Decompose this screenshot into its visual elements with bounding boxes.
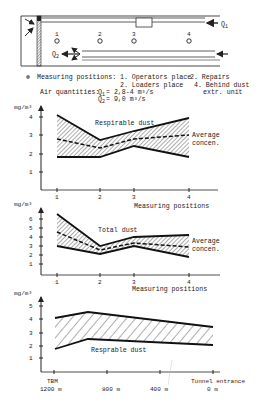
average-annotation: concen.: [192, 140, 220, 147]
q2-label: Q2: [52, 51, 59, 60]
svg-text:5: 5: [29, 225, 33, 232]
x-tick-label: 400 m: [150, 386, 168, 393]
tunnel-diagram: Q1 1 2 3 4 Q2: [21, 16, 228, 66]
svg-text:3: 3: [132, 279, 136, 286]
x-tick-label: 1200 m: [40, 386, 62, 393]
y-axis-label: mg/m³: [14, 201, 32, 208]
face-wall: [37, 16, 41, 66]
x-axis-label: Measuring positions: [132, 286, 207, 293]
supply-duct: Q2: [52, 48, 228, 60]
svg-text:1: 1: [55, 194, 59, 201]
q1-flow: Q1: [207, 21, 228, 30]
chart-respirable-dust-distance: mg/m³ 1 2 3 4 5 Resprable dust TBM 1200 …: [14, 290, 245, 393]
svg-text:2: 2: [98, 194, 102, 201]
legend-title: Measuring positions:: [37, 74, 116, 81]
svg-text:2: 2: [98, 279, 102, 286]
x-tick-label: Tunnel entrance: [191, 378, 245, 385]
measuring-symbol-icon: ⊗: [26, 74, 30, 81]
svg-text:3: 3: [132, 194, 136, 201]
svg-text:2: 2: [29, 151, 33, 158]
measuring-points: 1 2 3 4: [55, 31, 191, 43]
svg-text:1: 1: [55, 279, 59, 286]
legend-item: extr. unit: [203, 89, 243, 96]
position-label: 3: [132, 31, 136, 38]
legend-item: 4. Behind dust: [194, 82, 249, 89]
legend: ⊗ Measuring positions: 1. Operators plac…: [26, 74, 249, 105]
chart-title: Respirable dust: [95, 120, 154, 127]
x-tick-label: 0 m: [207, 386, 218, 393]
x-axis-label: Measuring positions: [134, 203, 209, 210]
q2-value: Q2= 9,0 m³/s: [98, 96, 146, 105]
x-tick-label: TBM: [47, 378, 58, 385]
exhaust-duct: [41, 18, 205, 27]
svg-text:3: 3: [29, 132, 33, 139]
measuring-point-icon: [187, 39, 191, 43]
duct-connector: [37, 16, 41, 21]
svg-text:3: 3: [29, 243, 33, 250]
svg-text:4: 4: [187, 194, 191, 201]
position-label: 2: [98, 31, 102, 38]
arrow-icon: [25, 28, 33, 36]
tunnel-outline: [21, 16, 220, 66]
figure: Q1 1 2 3 4 Q2 ⊗ Measuri: [0, 0, 266, 406]
dust-extraction-unit: [136, 18, 152, 27]
y-axis-label: mg/m³: [14, 290, 32, 297]
legend-item: 1. Operators place: [120, 74, 191, 81]
average-annotation: concen.: [192, 246, 220, 253]
svg-text:4: 4: [29, 316, 33, 323]
svg-text:5: 5: [29, 303, 33, 310]
arrow-icon: [72, 48, 80, 54]
legend-item: 2. Loaders place: [120, 82, 183, 89]
measuring-point-icon: [98, 39, 102, 43]
average-annotation: Average: [192, 238, 220, 245]
chart-total-dust: Measuring positions mg/m³ 1 2 3 4 5 6 1 …: [14, 201, 220, 286]
svg-text:3: 3: [29, 330, 33, 337]
arrow-icon: [72, 54, 80, 60]
arrow-icon: [25, 19, 34, 24]
position-label: 1: [55, 31, 59, 38]
chart-title: Total dust: [98, 227, 138, 234]
svg-text:4: 4: [29, 234, 33, 241]
svg-text:1: 1: [29, 355, 33, 362]
y-axis-label: mg/m³: [14, 104, 32, 111]
svg-text:4: 4: [187, 279, 191, 286]
measuring-point-icon: [132, 39, 136, 43]
chart-respirable-dust: mg/m³ 1 2 3 4 1 2 3 4 Respirable dust Av…: [14, 104, 220, 201]
x-tick-label: 800 m: [102, 386, 120, 393]
scan-artifact: [168, 360, 172, 385]
svg-text:2: 2: [29, 343, 33, 350]
position-label: 4: [187, 31, 191, 38]
svg-text:2: 2: [29, 252, 33, 259]
svg-text:4: 4: [29, 114, 33, 121]
svg-text:1: 1: [29, 261, 33, 268]
svg-text:1: 1: [29, 169, 33, 176]
svg-text:6: 6: [29, 216, 33, 223]
average-annotation: Average: [192, 132, 220, 139]
chart-title: Resprable dust: [91, 347, 146, 354]
measuring-point-icon: [55, 39, 59, 43]
legend-item: 2. Repairs: [190, 74, 230, 81]
q1-label: Q1: [221, 21, 228, 30]
air-quantities-label: Air quantities:: [40, 89, 99, 96]
